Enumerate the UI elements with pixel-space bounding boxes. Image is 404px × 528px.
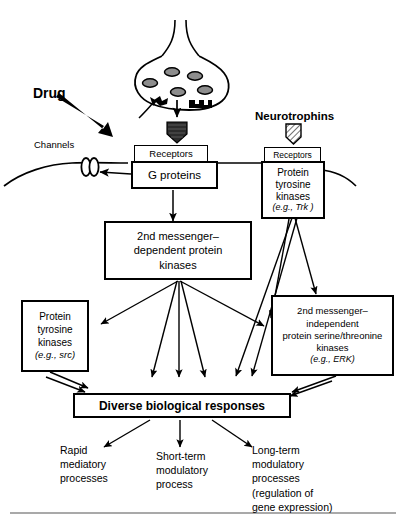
smd-line-3: kinases: [159, 258, 196, 272]
presynaptic-terminal-icon: [135, 20, 229, 118]
second-messenger-dependent-kinases-box[interactable]: 2nd messenger– dependent protein kinases: [104, 221, 252, 280]
smd-line-2: dependent protein: [134, 243, 223, 257]
responses-label: Diverse biological responses: [99, 399, 265, 413]
smi-line-1: 2nd messenger–: [297, 305, 368, 317]
trk-line-3: kinases: [276, 191, 310, 203]
receptors-box-right[interactable]: Receptors: [264, 147, 321, 162]
src-line-3: kinases: [38, 336, 72, 349]
smi-line-4: kinases: [316, 342, 348, 354]
neurotrophin-ligand-icon: [286, 124, 301, 144]
outcome-rapid: Rapid mediatory processes: [60, 443, 108, 486]
neurotrophins-label: Neurotrophins: [255, 110, 334, 123]
smi-line-3: protein serine/threonine: [283, 330, 383, 342]
signal-transduction-figure: Drug Neurotrophins Channels Receptors G …: [0, 0, 404, 528]
g-proteins-box[interactable]: G proteins: [131, 161, 218, 189]
trk-line-4: (e.g., Trk ): [273, 202, 314, 213]
arrows-from-smi: [290, 376, 336, 396]
src-line-2: tyrosine: [37, 323, 72, 336]
drug-ligand-icon: [167, 122, 187, 143]
trk-line-2: tyrosine: [275, 179, 310, 191]
arrow-fan-from-smd: [101, 281, 264, 377]
protein-tyrosine-kinases-src-box[interactable]: Protein tyrosine kinases (e.g., src): [21, 300, 89, 372]
smi-line-5: (e.g., ERK): [310, 354, 355, 366]
drug-label: Drug: [33, 86, 66, 102]
arrow-gprotein-to-channel: [100, 172, 131, 174]
receptors-left-label: Receptors: [149, 148, 192, 159]
receptors-box-left[interactable]: Receptors: [134, 145, 208, 162]
arrows-from-src: [46, 372, 88, 392]
outcome-short-term: Short-term modulatory process: [156, 449, 208, 492]
channels-label: Channels: [34, 140, 74, 151]
smi-line-2: independent: [306, 318, 358, 330]
second-messenger-independent-kinases-box[interactable]: 2nd messenger– independent protein serin…: [271, 295, 394, 376]
smd-line-1: 2nd messenger–: [137, 229, 219, 243]
g-proteins-label: G proteins: [148, 169, 201, 181]
src-line-4: (e.g., src): [35, 349, 75, 361]
outcome-long-term: Long-term modulatory processes (regulati…: [252, 443, 333, 514]
ion-channel-icon: [81, 158, 98, 176]
arrows-to-outcomes: [104, 420, 252, 447]
diverse-biological-responses-box[interactable]: Diverse biological responses: [73, 393, 291, 418]
receptors-right-label: Receptors: [273, 150, 312, 160]
trk-line-1: Protein: [277, 167, 309, 179]
src-line-1: Protein: [39, 310, 71, 323]
protein-tyrosine-kinases-trk-box[interactable]: Protein tyrosine kinases (e.g., Trk ): [261, 161, 325, 219]
